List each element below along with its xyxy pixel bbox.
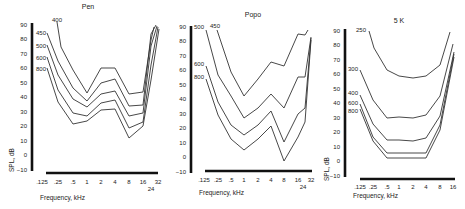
svg-text:90: 90 [20, 22, 27, 28]
svg-text:20: 20 [333, 129, 340, 135]
panel-title: Popo [245, 11, 261, 19]
y-tick-labels: 90 80 70 60 50 40 30 20 10 0 −10 [17, 22, 28, 173]
audiogram-figure: Pen 90 80 70 60 50 40 30 20 10 0 −10 SPL… [0, 0, 465, 209]
svg-text:4: 4 [113, 179, 117, 185]
svg-text:.25: .25 [54, 179, 63, 185]
svg-text:250: 250 [356, 27, 367, 33]
svg-text:90: 90 [333, 28, 340, 34]
svg-text:600: 600 [36, 55, 47, 61]
svg-text:10: 10 [179, 140, 186, 146]
svg-text:2: 2 [256, 177, 260, 183]
x-axis-label: Frequency, kHz [199, 189, 244, 197]
svg-text:20: 20 [20, 123, 27, 129]
svg-text:1: 1 [85, 179, 89, 185]
svg-text:−10: −10 [17, 167, 28, 173]
y-axis-label: SPL, dB [8, 148, 15, 172]
x-axis-label: Frequency, kHz [40, 194, 85, 202]
svg-text:400: 400 [348, 90, 359, 96]
svg-text:90: 90 [179, 24, 186, 30]
svg-text:.25: .25 [214, 177, 223, 183]
curves [47, 22, 159, 138]
svg-text:50: 50 [333, 86, 340, 92]
svg-text:−10: −10 [330, 173, 341, 179]
svg-text:450: 450 [36, 30, 47, 36]
svg-text:.5: .5 [228, 177, 234, 183]
svg-text:50: 50 [20, 80, 27, 86]
svg-text:.125: .125 [36, 179, 48, 185]
svg-text:80: 80 [179, 38, 186, 44]
curve-600 [360, 54, 454, 153]
svg-text:.125: .125 [354, 184, 366, 190]
svg-text:.5: .5 [384, 184, 390, 190]
svg-text:−10: −10 [176, 169, 187, 175]
svg-text:500: 500 [36, 43, 47, 49]
svg-text:32: 32 [155, 179, 162, 185]
svg-text:600: 600 [194, 61, 205, 67]
svg-text:2: 2 [411, 184, 415, 190]
panel-popo: Popo 90 80 70 60 50 40 30 20 10 0 −10 .1… [176, 11, 315, 197]
curves [360, 31, 454, 158]
svg-text:16: 16 [140, 179, 147, 185]
svg-text:450: 450 [210, 23, 221, 29]
svg-text:16: 16 [450, 184, 457, 190]
svg-text:0: 0 [183, 154, 187, 160]
curve-600 [206, 38, 311, 142]
curve-800 [206, 40, 311, 161]
svg-text:400: 400 [52, 17, 63, 23]
svg-text:800: 800 [36, 66, 47, 72]
svg-text:8: 8 [282, 177, 286, 183]
x-axis-label: Frequency, kHz [353, 192, 398, 200]
svg-text:.125: .125 [198, 177, 210, 183]
svg-text:4: 4 [269, 177, 273, 183]
curve-600 [47, 27, 158, 128]
svg-text:600: 600 [348, 100, 359, 106]
svg-text:30: 30 [179, 111, 186, 117]
svg-text:1: 1 [242, 177, 246, 183]
curve-300 [360, 44, 453, 118]
svg-text:0: 0 [337, 158, 341, 164]
y-tick-labels: 90 80 70 60 50 40 30 20 10 0 −10 [176, 24, 187, 175]
svg-text:30: 30 [333, 115, 340, 121]
svg-text:40: 40 [333, 100, 340, 106]
curve-labels: 250 300 400 600 800 [348, 27, 367, 114]
svg-text:60: 60 [333, 71, 340, 77]
svg-text:2: 2 [99, 179, 103, 185]
svg-text:24: 24 [300, 184, 307, 190]
panel-pen: Pen 90 80 70 60 50 40 30 20 10 0 −10 SPL… [8, 3, 162, 202]
y-axis-label: SPL, dB [323, 157, 330, 181]
svg-text:60: 60 [179, 67, 186, 73]
svg-text:800: 800 [194, 74, 205, 80]
svg-text:0: 0 [24, 152, 28, 158]
svg-text:8: 8 [127, 179, 131, 185]
y-tick-labels: 90 80 70 60 50 40 30 20 10 0 −10 [330, 28, 341, 179]
svg-text:16: 16 [295, 177, 302, 183]
svg-text:800: 800 [348, 108, 359, 114]
svg-text:4: 4 [424, 184, 428, 190]
svg-text:24: 24 [148, 186, 155, 192]
svg-text:60: 60 [20, 65, 27, 71]
svg-text:70: 70 [333, 57, 340, 63]
svg-text:10: 10 [20, 138, 27, 144]
svg-text:1: 1 [397, 184, 401, 190]
svg-text:70: 70 [20, 51, 27, 57]
panel-5k: 5 K 90 80 70 60 50 40 30 20 10 0 −10 SPL… [323, 17, 457, 200]
svg-text:80: 80 [20, 36, 27, 42]
svg-text:20: 20 [179, 125, 186, 131]
svg-text:.25: .25 [369, 184, 378, 190]
svg-text:32: 32 [308, 177, 315, 183]
curve-800 [360, 57, 454, 158]
svg-text:30: 30 [20, 109, 27, 115]
panel-title: 5 K [394, 17, 405, 24]
svg-text:40: 40 [20, 94, 27, 100]
svg-text:70: 70 [179, 53, 186, 59]
curve-400 [57, 22, 154, 94]
svg-text:.5: .5 [70, 179, 76, 185]
panel-title: Pen [82, 3, 95, 10]
curves [206, 30, 311, 161]
svg-text:50: 50 [179, 82, 186, 88]
svg-text:500: 500 [194, 24, 205, 30]
svg-text:8: 8 [438, 184, 442, 190]
svg-text:40: 40 [179, 96, 186, 102]
x-tick-labels: .125 .25 .5 1 2 4 8 16 32 24 [36, 179, 162, 192]
x-tick-labels: .125 .25 .5 1 2 4 8 16 [354, 184, 457, 190]
